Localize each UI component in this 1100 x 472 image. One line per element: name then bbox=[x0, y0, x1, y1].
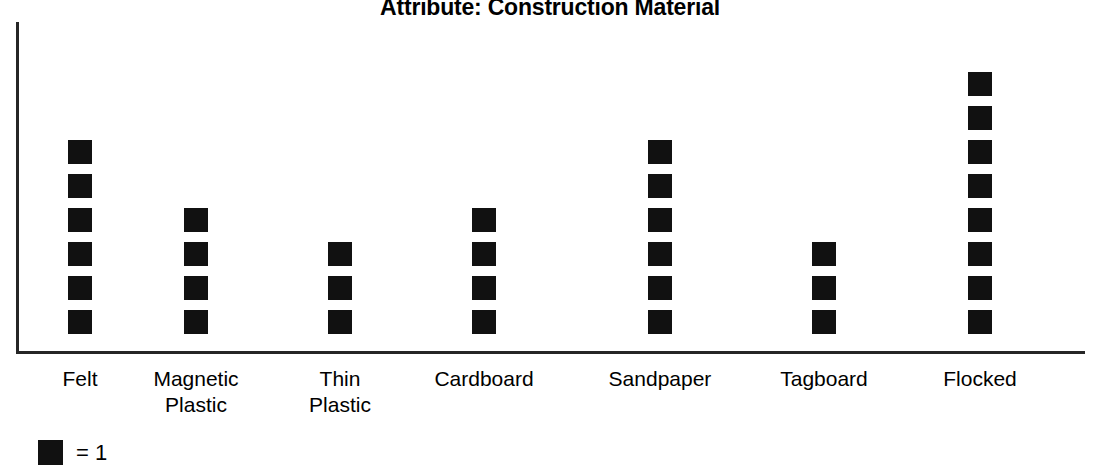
black-square-icon bbox=[328, 276, 352, 300]
black-square-icon bbox=[68, 208, 92, 232]
pictogram-column bbox=[625, 130, 695, 334]
black-square-icon bbox=[968, 174, 992, 198]
pictogram-column bbox=[45, 130, 115, 334]
black-square-icon bbox=[648, 140, 672, 164]
pictogram-column bbox=[449, 198, 519, 334]
black-square-icon bbox=[648, 174, 672, 198]
black-square-icon bbox=[968, 140, 992, 164]
pictogram-column bbox=[161, 198, 231, 334]
page-title: Attribute: Construction Material bbox=[0, 0, 1100, 20]
black-square-icon bbox=[472, 310, 496, 334]
black-square-icon bbox=[472, 242, 496, 266]
x-axis-category-labels: FeltMagnetic PlasticThin PlasticCardboar… bbox=[16, 366, 1085, 426]
black-square-icon bbox=[328, 310, 352, 334]
black-square-icon bbox=[68, 310, 92, 334]
black-square-icon bbox=[68, 140, 92, 164]
black-square-icon bbox=[472, 276, 496, 300]
legend: = 1 bbox=[38, 440, 107, 465]
pictogram-column bbox=[305, 232, 375, 334]
black-square-icon bbox=[68, 174, 92, 198]
x-axis-label-cardboard: Cardboard bbox=[399, 366, 569, 392]
black-square-icon bbox=[184, 276, 208, 300]
black-square-icon bbox=[648, 276, 672, 300]
black-square-icon bbox=[968, 208, 992, 232]
black-square-icon bbox=[968, 106, 992, 130]
black-square-icon bbox=[968, 242, 992, 266]
black-square-icon bbox=[968, 72, 992, 96]
black-square-icon bbox=[68, 276, 92, 300]
black-square-icon bbox=[184, 310, 208, 334]
plot-area bbox=[16, 22, 1085, 351]
pictograph-chart: Attribute: Construction Material FeltMag… bbox=[0, 0, 1100, 472]
x-axis-label-sandpaper: Sandpaper bbox=[575, 366, 745, 392]
pictogram-column bbox=[789, 232, 859, 334]
x-axis-label-tagboard: Tagboard bbox=[739, 366, 909, 392]
legend-label: = 1 bbox=[76, 440, 107, 465]
black-square-icon bbox=[968, 310, 992, 334]
black-square-icon bbox=[648, 242, 672, 266]
black-square-icon bbox=[648, 208, 672, 232]
black-square-icon bbox=[812, 276, 836, 300]
black-square-icon bbox=[968, 276, 992, 300]
black-square-icon bbox=[812, 310, 836, 334]
black-square-icon bbox=[184, 208, 208, 232]
x-axis-line bbox=[16, 351, 1085, 354]
black-square-icon bbox=[812, 242, 836, 266]
black-square-icon bbox=[472, 208, 496, 232]
black-square-icon bbox=[184, 242, 208, 266]
black-square-icon bbox=[328, 242, 352, 266]
pictogram-column bbox=[945, 62, 1015, 334]
black-square-icon bbox=[68, 242, 92, 266]
black-square-icon bbox=[648, 310, 672, 334]
x-axis-label-flocked: Flocked bbox=[895, 366, 1065, 392]
black-square-icon bbox=[38, 440, 63, 465]
